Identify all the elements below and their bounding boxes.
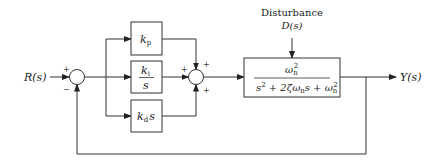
- junction2-top-plus: +: [203, 60, 210, 69]
- input-label: R(s): [23, 71, 47, 84]
- kd-output-line: [162, 85, 196, 117]
- plant-numerator: ωn2: [285, 62, 298, 77]
- disturbance-label: Disturbance: [261, 7, 323, 18]
- ki-denominator: s: [143, 79, 149, 92]
- plant-denominator: s2 + 2ζωns + ωn2: [256, 81, 338, 95]
- kp-output-line: [162, 39, 196, 70]
- junction1-minus-sign: −: [63, 85, 70, 94]
- output-label: Y(s): [400, 71, 422, 84]
- junction1-plus-sign: +: [63, 65, 70, 74]
- summing-junction-1: [70, 70, 85, 85]
- junction2-bottom-plus: +: [203, 86, 210, 95]
- junction2-left-plus: +: [181, 65, 188, 74]
- block-diagram: R(s) + − kp ki s kds + + +: [0, 0, 430, 163]
- summing-junction-2: [189, 70, 204, 85]
- disturbance-signal-label: D(s): [281, 20, 303, 31]
